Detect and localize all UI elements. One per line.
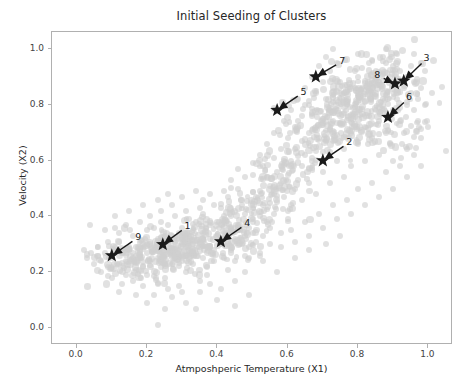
- y-tick-mark: [48, 327, 52, 328]
- x-tick-label: 0.2: [139, 349, 153, 359]
- cluster-index-label: 5: [300, 86, 306, 97]
- centroid-star-marker: [388, 77, 402, 90]
- scatter-chart-figure: Initial Seeding of Clusters 914257683 0.…: [0, 0, 466, 383]
- cluster-index-label: 7: [339, 55, 345, 66]
- centroid-annotation: 6: [389, 91, 412, 116]
- y-tick-label: 0.6: [30, 155, 44, 165]
- cluster-index-label: 8: [374, 69, 380, 80]
- y-tick-mark: [48, 104, 52, 105]
- x-tick-mark: [146, 344, 147, 348]
- centroid-annotations-layer: 914257683: [52, 32, 452, 344]
- cluster-index-label: 3: [424, 52, 430, 63]
- centroid-annotation: 2: [324, 136, 352, 160]
- x-tick-label: 0.4: [209, 349, 223, 359]
- y-tick-mark: [48, 215, 52, 216]
- y-tick-label: 1.0: [30, 43, 44, 53]
- cluster-index-label: 1: [184, 220, 190, 231]
- x-tick-mark: [427, 344, 428, 348]
- x-tick-label: 0.0: [68, 349, 82, 359]
- x-tick-mark: [287, 344, 288, 348]
- y-tick-label: 0.0: [30, 322, 44, 332]
- cluster-index-label: 4: [244, 217, 250, 228]
- centroid-annotation: 7: [317, 55, 345, 76]
- y-tick-mark: [48, 271, 52, 272]
- x-tick-mark: [357, 344, 358, 348]
- x-tick-label: 1.0: [420, 349, 434, 359]
- plot-area: 914257683: [51, 31, 452, 344]
- y-tick-label: 0.2: [30, 266, 44, 276]
- y-tick-mark: [48, 48, 52, 49]
- centroid-annotation: 5: [278, 86, 306, 110]
- x-axis-label: Atmposhperic Temperature (X1): [51, 363, 452, 374]
- cluster-index-label: 2: [346, 136, 352, 147]
- y-tick-mark: [48, 160, 52, 161]
- x-tick-mark: [76, 344, 77, 348]
- cluster-index-label: 9: [135, 231, 141, 242]
- chart-title: Initial Seeding of Clusters: [51, 9, 452, 23]
- centroid-annotation: 4: [222, 217, 250, 241]
- y-tick-label: 0.8: [30, 99, 44, 109]
- x-tick-label: 0.6: [280, 349, 294, 359]
- y-tick-label: 0.4: [30, 210, 44, 220]
- centroid-annotation: 8: [374, 69, 393, 83]
- centroid-annotation: 9: [113, 231, 141, 255]
- centroid-annotation: 1: [164, 220, 190, 244]
- x-tick-mark: [216, 344, 217, 348]
- x-tick-label: 0.8: [350, 349, 364, 359]
- cluster-index-label: 6: [406, 91, 412, 102]
- y-axis-label: Velocity (X2): [17, 106, 28, 246]
- centroid-annotation: 3: [405, 52, 430, 80]
